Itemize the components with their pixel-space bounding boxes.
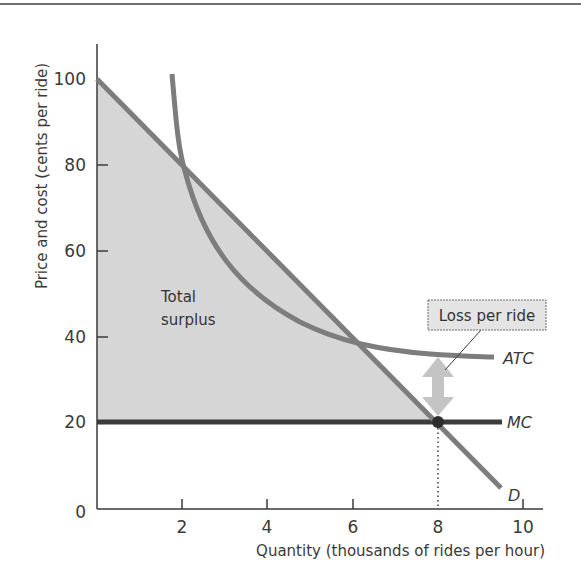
y-tick-label: 20 xyxy=(64,412,86,432)
x-tick-label: 6 xyxy=(348,517,359,537)
y-tick-label: 100 xyxy=(54,69,86,89)
x-axis-title: Quantity (thousands of rides per hour) xyxy=(256,542,545,560)
x-ticks xyxy=(182,499,523,509)
callout-leader xyxy=(445,330,481,370)
y-tick-label: 40 xyxy=(64,327,86,347)
equilibrium-point xyxy=(432,416,444,428)
demand-label: D xyxy=(508,486,520,505)
x-tick-label: 2 xyxy=(177,517,188,537)
chart: 100 80 60 40 20 0 2 4 6 8 10 Quantity (t… xyxy=(0,0,581,582)
atc-label: ATC xyxy=(502,349,535,368)
y-tick-label: 60 xyxy=(64,241,86,261)
loss-per-ride-label: Loss per ride xyxy=(439,307,535,325)
total-surplus-label-line2: surplus xyxy=(161,311,216,329)
y-tick-label: 0 xyxy=(75,502,86,522)
y-tick-label: 80 xyxy=(64,155,86,175)
mc-label: MC xyxy=(507,413,533,432)
x-tick-label: 8 xyxy=(433,517,444,537)
y-axis-title: Price and cost (cents per ride) xyxy=(33,63,51,289)
total-surplus-label-line1: Total xyxy=(160,288,196,306)
x-tick-label: 10 xyxy=(512,517,534,537)
x-tick-label: 4 xyxy=(262,517,273,537)
